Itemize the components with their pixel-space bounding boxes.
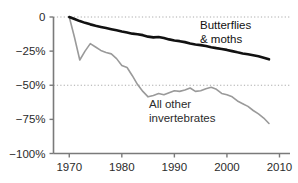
y-tick-label--100: −100%	[9, 148, 45, 160]
butterflies-label-line2: & moths	[200, 33, 242, 45]
line-chart: 0−25%−50%−75%−100% 19701980199020002010 …	[0, 0, 298, 183]
y-tick-label--50: −50%	[16, 79, 46, 91]
y-tick-label-0: 0	[39, 11, 45, 23]
x-tick-label-1970: 1970	[56, 161, 82, 173]
x-tick-label-2010: 2010	[267, 161, 293, 173]
y-tick-label--25: −25%	[16, 45, 46, 57]
x-tick-label-1990: 1990	[162, 161, 188, 173]
x-tick-label-1980: 1980	[109, 161, 135, 173]
butterflies-label-line1: Butterflies	[200, 19, 251, 31]
invertebrates-label-line1: All other	[149, 98, 191, 110]
y-tick-label--75: −75%	[16, 113, 46, 125]
chart-container: 0−25%−50%−75%−100% 19701980199020002010 …	[0, 0, 298, 183]
invertebrates-label-line2: invertebrates	[149, 112, 216, 124]
x-tick-label-2000: 2000	[214, 161, 240, 173]
